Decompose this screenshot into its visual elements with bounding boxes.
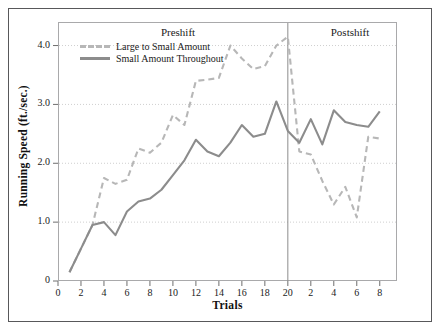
x-tick-label: 10 — [161, 287, 185, 298]
x-axis-title: Trials — [58, 299, 397, 311]
x-tick-label: 4 — [322, 287, 346, 298]
phase-label-preshift: Preshift — [130, 26, 226, 38]
series-line-0 — [69, 37, 379, 272]
y-tick-label: 0 — [14, 274, 50, 285]
chart-canvas — [0, 0, 440, 331]
legend-swatch-dashed-icon — [80, 45, 110, 48]
data-series — [69, 37, 379, 272]
y-axis-title: Running Speed (ft./sec.) — [17, 51, 29, 241]
x-tick-label: 6 — [345, 287, 369, 298]
y-axis-ticks — [53, 46, 58, 281]
series-line-1 — [69, 101, 379, 272]
legend-label-0: Large to Small Amount — [116, 41, 210, 52]
x-tick-label: 8 — [368, 287, 392, 298]
y-tick-label: 1.0 — [14, 215, 50, 226]
gridlines — [59, 46, 396, 223]
x-axis-ticks — [58, 281, 380, 286]
x-tick-label: 0 — [46, 287, 70, 298]
figure-container: Running Speed (ft./sec.) Trials Preshift… — [0, 0, 440, 331]
x-tick-label: 14 — [207, 287, 231, 298]
legend-item-small-throughout: Small Amount Throughout — [80, 52, 224, 65]
legend-label-1: Small Amount Throughout — [116, 53, 224, 64]
phase-label-postshift: Postshift — [313, 26, 387, 38]
x-tick-label: 20 — [276, 287, 300, 298]
legend-swatch-solid-icon — [80, 57, 110, 60]
y-tick-label: 3.0 — [14, 97, 50, 108]
x-tick-label: 16 — [230, 287, 254, 298]
x-tick-label: 2 — [299, 287, 323, 298]
x-tick-label: 2 — [69, 287, 93, 298]
x-tick-label: 18 — [253, 287, 277, 298]
y-tick-label: 4.0 — [14, 39, 50, 50]
x-tick-label: 4 — [92, 287, 116, 298]
x-tick-label: 6 — [115, 287, 139, 298]
y-tick-label: 2.0 — [14, 156, 50, 167]
x-tick-label: 8 — [138, 287, 162, 298]
x-tick-label: 12 — [184, 287, 208, 298]
